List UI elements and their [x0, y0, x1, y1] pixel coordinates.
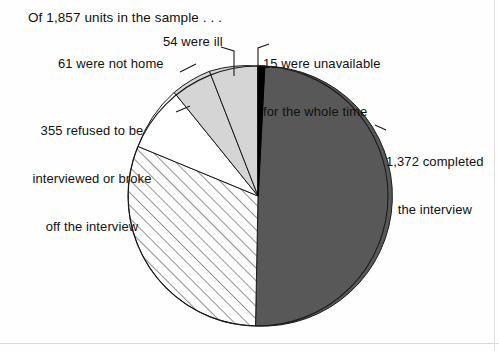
label-refused: 355 refused to be interviewed or broke o… — [12, 91, 172, 267]
label-unavailable: 15 were unavailable for the whole time — [263, 24, 381, 152]
label-refused-line1: 355 refused to be — [12, 123, 172, 139]
label-completed: 1,372 completed the interview — [386, 122, 484, 250]
label-unavailable-line2: for the whole time — [263, 104, 381, 120]
figure-frame: Of 1,857 units in the sample . . . 355 r… — [0, 0, 499, 351]
label-completed-line1: 1,372 completed — [386, 154, 484, 170]
label-refused-line2: interviewed or broke — [12, 171, 172, 187]
chart-title: Of 1,857 units in the sample . . . — [28, 10, 222, 26]
label-unavailable-line1: 15 were unavailable — [263, 56, 381, 72]
label-refused-line3: off the interview — [12, 219, 172, 235]
label-completed-line2: the interview — [386, 202, 484, 218]
label-not-home: 61 were not home — [58, 56, 164, 72]
label-ill: 54 were ill — [163, 34, 223, 50]
leader-line-not-home — [180, 64, 196, 72]
